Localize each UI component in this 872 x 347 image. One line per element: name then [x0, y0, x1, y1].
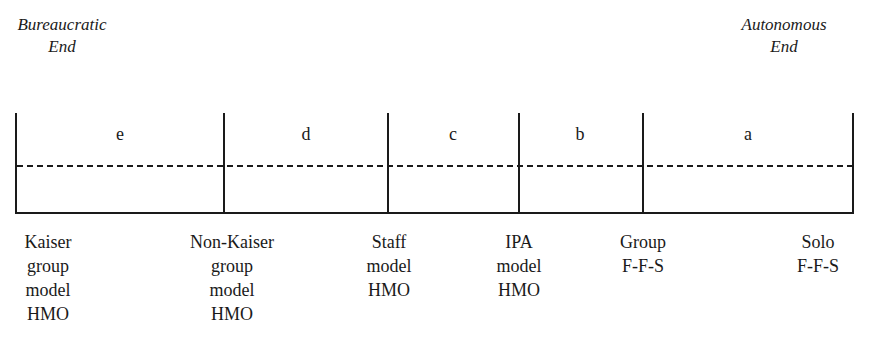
category-line: Group	[620, 230, 666, 254]
category-line: Staff	[367, 230, 412, 254]
category-line: HMO	[367, 278, 412, 302]
category-line: Solo	[797, 230, 839, 254]
left-boundary-line	[15, 113, 17, 214]
category-line: Kaiser	[25, 230, 72, 254]
right-boundary-line	[852, 113, 854, 214]
divider-line-d-c	[387, 113, 389, 214]
segment-label-c: c	[449, 124, 457, 144]
category-group-ffs: Group F-F-S	[620, 230, 666, 278]
divider-line-c-b	[518, 113, 520, 214]
dashed-midline	[17, 165, 853, 167]
category-line: model	[25, 278, 72, 302]
category-line: F-F-S	[620, 254, 666, 278]
bureaucratic-end-line1: Bureaucratic	[6, 14, 118, 36]
category-line: model	[190, 278, 274, 302]
category-non-kaiser-group-hmo: Non-Kaiser group model HMO	[190, 230, 274, 326]
autonomous-end-line1: Autonomous	[714, 14, 854, 36]
category-line: HMO	[497, 278, 542, 302]
category-line: group	[190, 254, 274, 278]
segment-label-a: a	[744, 124, 752, 144]
autonomous-end-line2: End	[714, 36, 854, 58]
category-kaiser-group-hmo: Kaiser group model HMO	[25, 230, 72, 326]
category-line: HMO	[190, 302, 274, 326]
category-line: group	[25, 254, 72, 278]
divider-line-b-a	[642, 113, 644, 214]
segment-label-e: e	[116, 124, 124, 144]
category-line: model	[497, 254, 542, 278]
bureaucratic-end-line2: End	[6, 36, 118, 58]
segment-label-d: d	[302, 124, 311, 144]
category-line: Non-Kaiser	[190, 230, 274, 254]
divider-line-e-d	[223, 113, 225, 214]
baseline	[16, 212, 854, 214]
category-solo-ffs: Solo F-F-S	[797, 230, 839, 278]
bureaucratic-end-label: Bureaucratic End	[6, 14, 118, 58]
segment-label-b: b	[576, 124, 585, 144]
category-staff-model-hmo: Staff model HMO	[367, 230, 412, 302]
category-line: HMO	[25, 302, 72, 326]
category-ipa-model-hmo: IPA model HMO	[497, 230, 542, 302]
category-line: IPA	[497, 230, 542, 254]
autonomous-end-label: Autonomous End	[714, 14, 854, 58]
category-line: model	[367, 254, 412, 278]
category-line: F-F-S	[797, 254, 839, 278]
